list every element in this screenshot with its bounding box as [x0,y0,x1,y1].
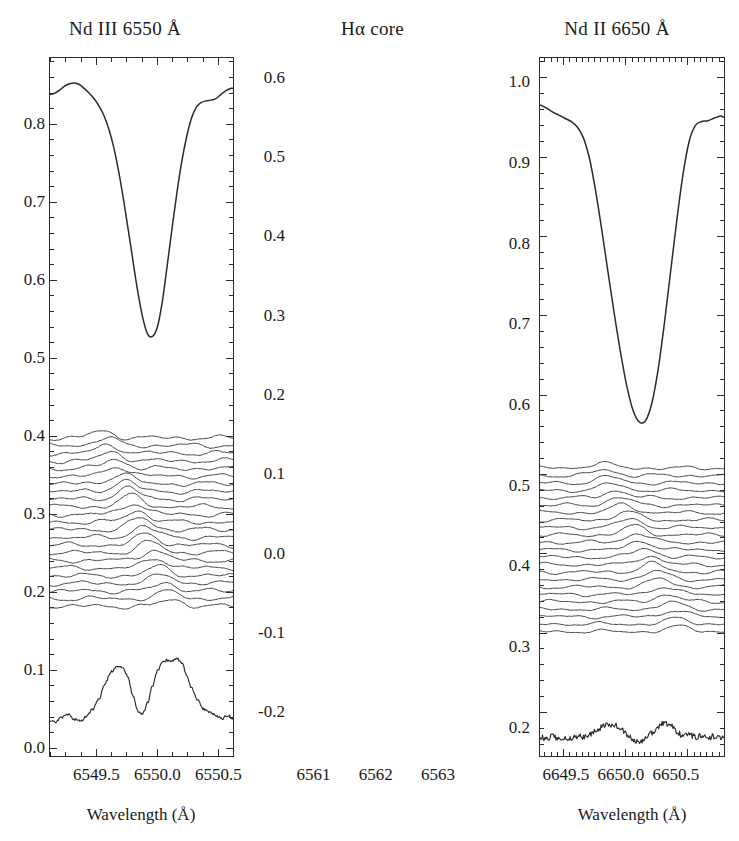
x-tick-label: 6650.5 [652,765,699,785]
y-tick-label: 0.6 [0,270,45,290]
y-tick-label: 0.4 [0,556,530,576]
y-tick-label: 0.5 [0,348,45,368]
x-tick-label: 6549.5 [73,765,120,785]
y-tick-label: 0.0 [0,738,45,758]
y-tick-label: 0.7 [0,314,530,334]
y-tick-label: 0.6 [0,395,530,415]
y-tick-label: 1.0 [0,72,530,92]
x-tick-label: 6550.5 [195,765,242,785]
y-tick-label: 0.8 [0,234,530,254]
x-tick-label: 6550.0 [134,765,181,785]
y-tick-label: 0.2 [0,582,45,602]
x-tick-label: 6650.0 [597,765,644,785]
panel-halpha-core: Hα core Wavelength (Å) [250,0,495,841]
mean-profile-curve [50,83,233,337]
x-tick-label: 6562 [359,765,393,785]
x-axis-title: Wavelength (Å) [87,805,196,825]
y-tick-label: 0.8 [0,114,45,134]
x-tick-label: 6649.5 [542,765,589,785]
residual-trace [50,431,233,441]
x-tick-label: 6561 [297,765,331,785]
residual-trace [50,600,233,610]
y-tick-label: 0.4 [0,426,45,446]
panel-title: Nd II 6650 Å [495,18,739,40]
y-tick-label: 0.9 [0,153,530,173]
y-tick-label: 0.3 [0,637,530,657]
y-tick-label: 0.3 [0,504,45,524]
x-tick-label: 6563 [421,765,455,785]
y-tick-label: 0.5 [0,476,530,496]
y-tick-label: 0.7 [0,192,45,212]
residual-trace [50,444,233,456]
residual-trace [50,590,233,601]
residual-trace [50,518,233,532]
y-tick-label: 0.2 [0,718,530,738]
panel-title: Hα core [250,18,495,40]
panel-title: Nd III 6550 Å [0,18,250,40]
panel-nd2-6650: Nd II 6650 Å Wavelength (Å) [495,0,739,841]
spectrum-figure: Nd III 6550 Å Wavelength (Å) Hα core Wav… [0,0,739,841]
y-tick-label: 0.1 [0,660,45,680]
